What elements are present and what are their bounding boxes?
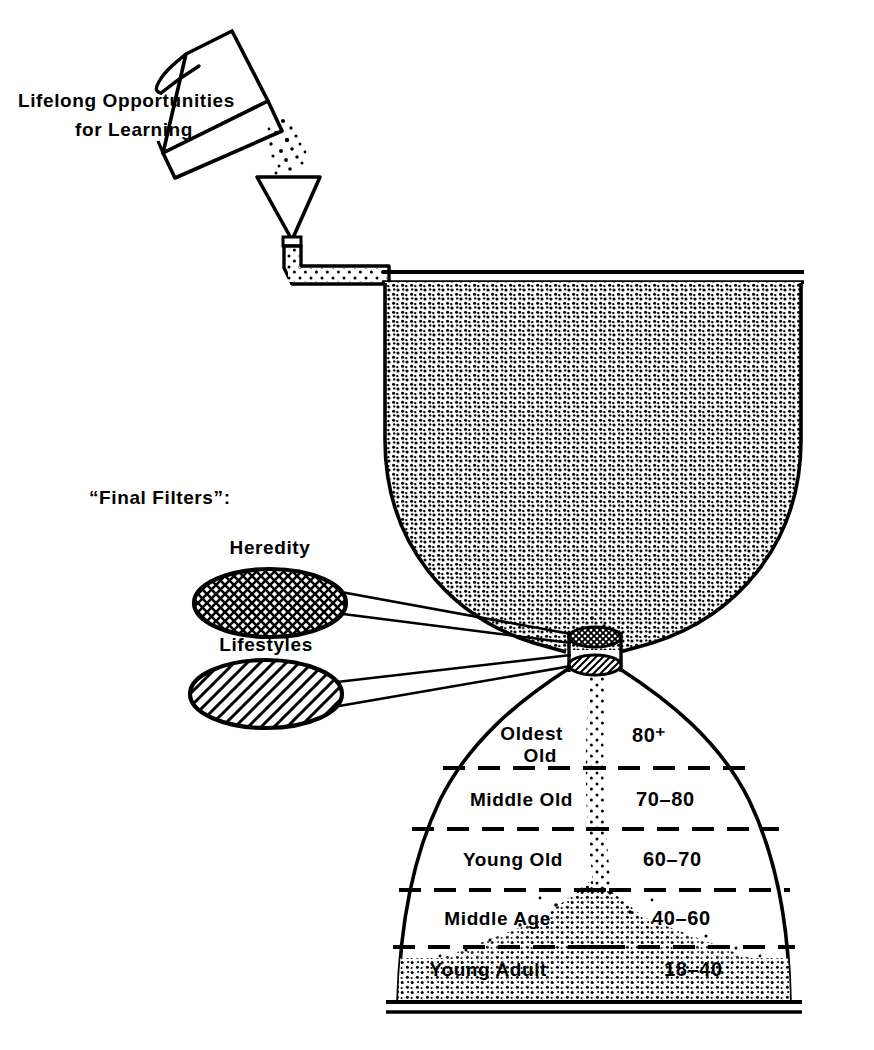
final-filters-heading: “Final Filters”: bbox=[89, 487, 231, 508]
heredity-ellipse-icon bbox=[194, 569, 346, 637]
lifestyles-ellipse-icon bbox=[190, 660, 342, 728]
range-label-young-old: 60–70 bbox=[643, 848, 702, 870]
source-label-line2: for Learning bbox=[75, 119, 193, 140]
range-label-young-adult: 18–40 bbox=[664, 958, 723, 980]
stage-label-young-old: Young Old bbox=[463, 849, 563, 870]
stage-label-oldest-old-line1: Oldest bbox=[500, 723, 563, 744]
stage-label-middle-old: Middle Old bbox=[470, 789, 573, 810]
stage-label-young-adult: Young Adult bbox=[430, 959, 547, 980]
stage-label-oldest-old-line2: Old bbox=[524, 745, 557, 766]
range-label-middle-old: 70–80 bbox=[636, 788, 695, 810]
figure-root: Lifelong Opportunities for Learning “Fin… bbox=[0, 0, 874, 1050]
stage-label-middle-age: Middle Age bbox=[444, 908, 551, 929]
hourglass-diagram: Lifelong Opportunities for Learning “Fin… bbox=[0, 0, 874, 1050]
source-label-line1: Lifelong Opportunities bbox=[18, 90, 235, 111]
range-label-oldest-old: 80⁺ bbox=[632, 724, 667, 746]
heredity-label: Heredity bbox=[230, 537, 311, 558]
neck-heredity-disk bbox=[569, 627, 621, 647]
range-label-middle-age: 40–60 bbox=[652, 907, 711, 929]
neck-lifestyles-disk bbox=[569, 655, 621, 675]
lifestyles-label: Lifestyles bbox=[219, 634, 313, 655]
